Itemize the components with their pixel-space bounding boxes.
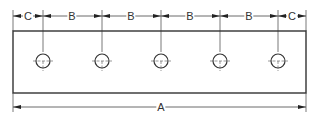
dim-label-b-4: B (244, 11, 253, 22)
dim-label-b-3: B (185, 11, 194, 22)
holes (33, 54, 288, 71)
hole-4 (210, 54, 230, 71)
hole-5 (268, 54, 288, 71)
dim-label-c-left: C (23, 11, 33, 22)
dim-label-a: A (156, 102, 165, 113)
dim-label-b-2: B (126, 11, 135, 22)
plate-outline (13, 31, 306, 93)
dim-label-b-1: B (67, 11, 76, 22)
hole-2 (92, 54, 112, 71)
dim-label-c-right: C (287, 11, 297, 22)
hole-1 (33, 54, 53, 71)
drawing-canvas: C B B B B C A (0, 0, 319, 119)
hole-3 (151, 54, 171, 71)
